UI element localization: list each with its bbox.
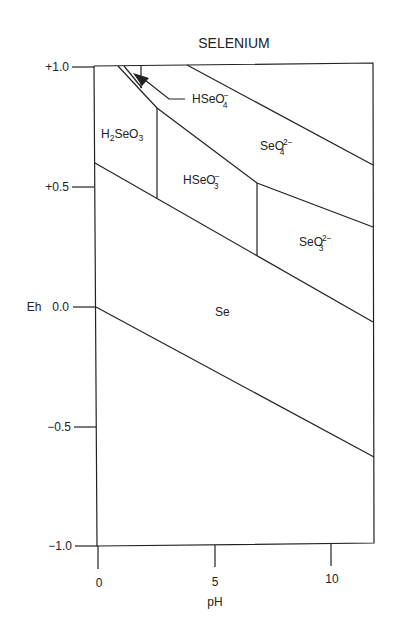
y-tick-label: +1.0: [45, 60, 69, 74]
eh-ph-diagram: SELENIUM +1.0 +0.5 0.0 Eh −0.5 −1.0 0 5 …: [0, 0, 395, 640]
y-tick-label: −1.0: [48, 539, 72, 553]
x-tick-label: 10: [325, 572, 339, 586]
y-axis: +1.0 +0.5 0.0 Eh −0.5 −1.0: [27, 60, 97, 553]
field-label-seo3: SeO2−3: [299, 233, 332, 253]
boundary-lines: [95, 65, 374, 457]
field-label-h2seo3: H2SeO3: [101, 127, 143, 143]
x-tick-label: 5: [212, 575, 219, 589]
field-label-se: Se: [215, 305, 230, 319]
field-label-seo4: SeO2−4: [260, 137, 293, 157]
field-label-hseo3: HSeO−3: [183, 171, 220, 191]
y-axis-label: Eh: [27, 300, 42, 314]
y-tick-label: +0.5: [45, 180, 69, 194]
x-axis-label: pH: [207, 595, 222, 609]
field-label-hseo4: HSeO−4: [192, 90, 229, 110]
x-axis: 0 5 10 pH: [96, 544, 339, 609]
x-tick-label: 0: [96, 576, 103, 590]
chart-title: SELENIUM: [198, 35, 270, 51]
y-tick-label: 0.0: [52, 300, 69, 314]
y-tick-label: −0.5: [47, 420, 71, 434]
